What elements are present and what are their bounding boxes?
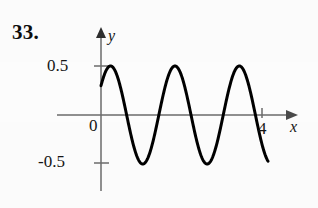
y-tick-label-upper: 0.5 — [47, 57, 68, 74]
plot-canvas — [0, 0, 318, 208]
y-tick-label-lower: -0.5 — [38, 153, 65, 170]
y-axis-arrowhead — [96, 27, 106, 38]
x-tick-label-4: 4 — [258, 120, 267, 137]
x-axis-name-label: x — [290, 119, 297, 135]
y-axis — [94, 27, 109, 191]
figure-container: 33. 0.5 -0.5 0 4 y x — [0, 0, 318, 208]
y-axis-name-label: y — [108, 28, 115, 44]
origin-label: 0 — [89, 117, 98, 134]
